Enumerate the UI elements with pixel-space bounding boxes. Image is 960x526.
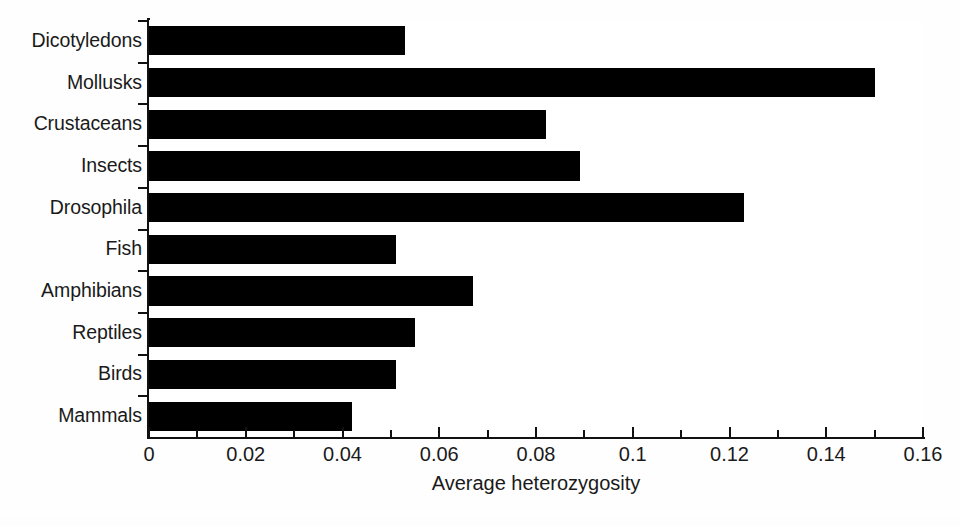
x-axis-tick [148,427,150,438]
x-axis-tick-label: 0.1 [619,443,647,466]
bar-dicotyledons [149,26,923,55]
bar-reptiles [149,318,923,347]
x-axis-tick-label: 0.04 [323,443,362,466]
x-axis-tick-label: 0.08 [517,443,556,466]
bar-drosophila [149,193,923,222]
bar-fill [149,68,875,97]
bar-fill [149,235,396,264]
x-axis-minor-tick [293,430,295,438]
plot-area [149,20,923,437]
x-axis-tick-label: 0.02 [226,443,265,466]
category-label: Drosophila [50,196,142,219]
bar-fill [149,26,405,55]
x-axis-tick [729,427,731,438]
bar-fish [149,235,923,264]
x-axis-tick [535,427,537,438]
x-axis-title: Average heterozygosity [149,472,923,495]
bar-fill [149,110,546,139]
x-axis-minor-tick [487,430,489,438]
x-axis-tick [922,427,924,438]
category-label: Fish [106,237,142,260]
x-axis-tick [438,427,440,438]
category-label: Mammals [58,404,142,427]
x-axis-tick [245,427,247,438]
x-axis-minor-tick [777,430,779,438]
bar-fill [149,360,396,389]
x-axis-tick-label: 0 [143,443,154,466]
x-axis-minor-tick [390,430,392,438]
bar-fill [149,402,352,431]
bar-insects [149,151,923,180]
bar-fill [149,318,415,347]
category-label: Dicotyledons [32,29,142,52]
x-axis-minor-tick [196,430,198,438]
x-axis-minor-tick [583,430,585,438]
x-axis-tick-label: 0.16 [904,443,943,466]
x-axis-tick-label: 0.12 [710,443,749,466]
bar-crustaceans [149,110,923,139]
bar-fill [149,193,744,222]
category-label: Mollusks [67,71,142,94]
x-axis-tick-label: 0.14 [807,443,846,466]
x-axis-tick [342,427,344,438]
chart-page: DicotyledonsMollusksCrustaceansInsectsDr… [0,0,960,526]
x-axis-tick [632,427,634,438]
x-axis-minor-tick [680,430,682,438]
category-label: Reptiles [72,321,142,344]
category-label: Insects [81,154,142,177]
y-axis-category-labels: DicotyledonsMollusksCrustaceansInsectsDr… [0,0,144,526]
bar-fill [149,151,580,180]
category-label: Crustaceans [34,112,142,135]
bar-fill [149,276,473,305]
scan-edge-artifact [0,516,960,526]
bar-birds [149,360,923,389]
category-label: Birds [98,362,142,385]
x-axis-tick-label: 0.06 [420,443,459,466]
x-axis-tick [825,427,827,438]
category-label: Amphibians [41,279,142,302]
bar-amphibians [149,276,923,305]
x-axis-minor-tick [874,430,876,438]
bar-mollusks [149,68,923,97]
